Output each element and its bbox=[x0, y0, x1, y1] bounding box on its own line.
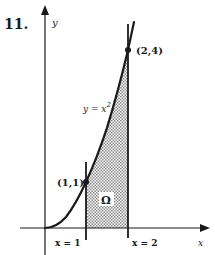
point-1-1-label: (1,1) bbox=[57, 177, 84, 189]
curve-equation-exponent: 2 bbox=[105, 101, 111, 109]
line-x-equals-2-label: x = 2 bbox=[132, 238, 157, 248]
y-axis-label: y bbox=[51, 17, 58, 28]
curve-equation-label: y = x2 bbox=[82, 101, 111, 114]
point-2-4-label: (2,4) bbox=[136, 45, 163, 57]
problem-number: 11. bbox=[4, 16, 28, 32]
curve-equation-base: y = x bbox=[82, 104, 106, 114]
region-omega-label: Ω bbox=[101, 194, 111, 207]
line-x-equals-1-label: x = 1 bbox=[55, 238, 80, 248]
diagram-canvas: 11. y x (2,4) (1,1) y = x2 Ω x = 1 x = 2 bbox=[0, 0, 215, 255]
x-axis-arrow-icon bbox=[200, 224, 210, 232]
point-1-1 bbox=[83, 179, 89, 185]
y-axis-arrow-icon bbox=[41, 5, 49, 15]
x-axis-label: x bbox=[198, 238, 203, 248]
point-2-4 bbox=[125, 47, 131, 53]
